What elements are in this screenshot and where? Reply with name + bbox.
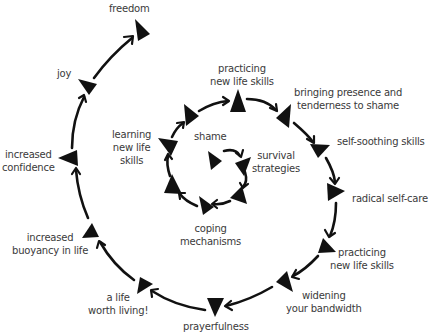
label-increased-buoyancy: increased buoyancy in life (12, 231, 88, 257)
label-survival-strategies: survival strategies (252, 149, 300, 175)
label-joy: joy (57, 67, 71, 80)
label-practicing-new-life-skills-1: practicing new life skills (210, 62, 274, 88)
label-prayerfulness: prayerfulness (183, 320, 249, 333)
triangle-icon (78, 79, 97, 95)
triangle-icon (58, 150, 78, 166)
label-coping-mechanisms: coping mechanisms (180, 222, 241, 248)
label-radical-self-care: radical self-care (352, 192, 428, 205)
triangle-icon (135, 19, 150, 41)
triangle-icon (208, 151, 222, 170)
label-learning-new-life-skills: learning new life skills (112, 128, 151, 167)
triangle-icon (164, 174, 182, 194)
triangle-icon (276, 104, 291, 128)
triangle-icon (207, 298, 224, 317)
label-practicing-new-life-skills-2: practicing new life skills (330, 246, 394, 272)
triangle-icon (235, 157, 251, 176)
triangle-icon (230, 186, 247, 204)
label-widening-bandwidth: widening your bandwidth (286, 289, 362, 315)
label-increased-confidence: increased confidence (2, 148, 55, 174)
label-self-soothing-skills: self-soothing skills (337, 135, 425, 148)
label-shame: shame (194, 130, 227, 143)
stage-markers (58, 19, 345, 317)
triangle-icon (310, 144, 330, 158)
triangle-icon (199, 196, 214, 215)
triangle-icon (327, 183, 345, 201)
label-freedom: freedom (109, 2, 150, 15)
label-a-life-worth-living: a life worth living! (88, 291, 148, 317)
label-bringing-presence: bringing presence and tenderness to sham… (294, 86, 402, 112)
triangle-icon (230, 89, 246, 112)
triangle-icon (184, 104, 199, 126)
